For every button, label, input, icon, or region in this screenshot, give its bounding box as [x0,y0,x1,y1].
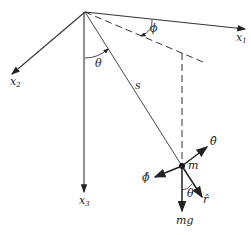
x1-axis [85,12,245,29]
string-length-label: s [135,80,141,91]
spherical-pendulum-diagram: x1 x2 x3 ϕ θ s m mg θ̂ ϕ̂ r̂ θ [0,0,251,235]
x3-axis-label: x3 [79,195,90,208]
phi-hat-label: ϕ̂ [142,172,150,183]
theta-angle-label-bottom: θ [187,188,194,199]
theta-angle-label-top: θ [95,58,102,69]
pendulum-string [85,12,182,166]
theta-hat-label: θ̂ [210,136,217,147]
x2-axis-label: x2 [10,76,21,89]
mass-label: m [188,160,198,171]
x2-axis [12,12,85,74]
phi-hat-arrow [155,166,182,177]
projection-line [85,12,203,62]
phi-angle-label: ϕ [150,23,158,34]
gravity-force-label: mg [176,215,193,226]
diagram-lines [0,0,251,235]
r-hat-label: r̂ [203,194,208,205]
x1-axis-label: x1 [236,32,247,45]
